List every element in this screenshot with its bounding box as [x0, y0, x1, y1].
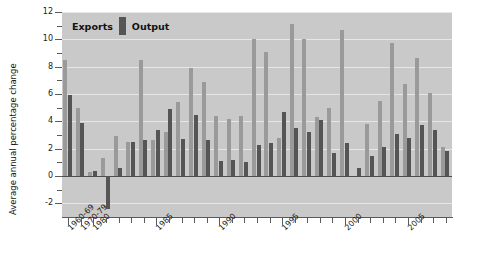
- x-tick-1989: [207, 218, 208, 223]
- bar-exports-1990: [214, 116, 218, 176]
- x-tick-2001: [358, 218, 359, 223]
- bar-exports-2008: [441, 147, 445, 176]
- x-tick-1998: [320, 218, 321, 223]
- bar-output-1985: [156, 130, 160, 176]
- gridline-10: [62, 39, 452, 40]
- y-tick-label-10: 10: [43, 35, 53, 43]
- bar-output-1994: [269, 143, 273, 176]
- bar-exports-2002: [365, 124, 369, 176]
- bar-exports-1989: [202, 82, 206, 176]
- gridline--2: [62, 203, 452, 204]
- y-tick-label--2: -2: [45, 199, 53, 207]
- legend-label-exports: Exports: [72, 21, 113, 32]
- bar-output-2000: [345, 143, 349, 176]
- x-tick-1981: [106, 218, 107, 223]
- x-tick-1997: [307, 218, 308, 223]
- bar-output-1988: [194, 115, 198, 177]
- x-tick-2004: [395, 218, 396, 223]
- gridline-12: [62, 12, 452, 13]
- bar-output-1970-79: [80, 123, 84, 176]
- bar-exports-2004: [390, 43, 394, 176]
- bar-exports-2007: [428, 93, 432, 176]
- bar-exports-1981: [101, 158, 105, 176]
- bar-output-1987: [181, 139, 185, 176]
- x-tick-1982: [119, 218, 120, 223]
- bar-output-1990: [219, 161, 223, 176]
- bar-output-2004: [395, 134, 399, 176]
- y-tick--2: [55, 203, 62, 204]
- bar-output-1983: [131, 142, 135, 176]
- chart-root: -2024681012 Average annual percentage ch…: [0, 0, 482, 278]
- x-tick-2002: [370, 218, 371, 223]
- bar-exports-1960-69: [63, 60, 67, 176]
- bar-output-2005: [407, 138, 411, 176]
- bar-output-1998: [319, 120, 323, 176]
- y-tick-6: [55, 94, 62, 95]
- bar-exports-2005: [403, 84, 407, 176]
- bar-exports-1998: [315, 117, 319, 176]
- x-tick-1991: [232, 218, 233, 223]
- bar-exports-1996: [290, 24, 294, 176]
- bar-exports-1986: [164, 132, 168, 176]
- bar-exports-1999: [327, 108, 331, 176]
- bar-output-2007: [433, 130, 437, 176]
- bar-exports-2006: [415, 58, 419, 176]
- legend-swatch-output: [119, 17, 126, 35]
- y-tick-12: [55, 12, 62, 13]
- bar-exports-1982: [114, 136, 118, 176]
- plot-area: [62, 12, 452, 217]
- x-tick-1986: [169, 218, 170, 223]
- bar-output-1992: [244, 162, 248, 176]
- x-tick-2006: [421, 218, 422, 223]
- x-tick-1993: [257, 218, 258, 223]
- y-tick-label-6: 6: [48, 90, 53, 98]
- x-tick-1994: [270, 218, 271, 223]
- bar-exports-1992: [239, 116, 243, 176]
- bar-exports-1991: [227, 119, 231, 176]
- bar-exports-1993: [252, 39, 256, 176]
- bar-output-1999: [332, 153, 336, 176]
- bar-exports-1988: [189, 68, 193, 176]
- bar-output-1984: [143, 140, 147, 176]
- bar-output-2001: [357, 168, 361, 176]
- y-tick-4: [55, 121, 62, 122]
- y-tick-2: [55, 149, 62, 150]
- chart-legend: Exports Output: [72, 16, 169, 36]
- bar-exports-1995: [277, 138, 281, 176]
- bar-output-1981: [106, 176, 110, 209]
- bar-output-2006: [420, 125, 424, 176]
- bar-output-2002: [370, 156, 374, 177]
- x-axis: 1960-691970-79198019851990199520002005: [62, 217, 453, 225]
- bar-output-2003: [382, 147, 386, 176]
- zero-line: [62, 176, 452, 177]
- x-tick-2008: [446, 218, 447, 223]
- x-tick-1999: [332, 218, 333, 223]
- y-tick-label-2: 2: [48, 145, 53, 153]
- bar-output-1986: [168, 109, 172, 176]
- x-tick-2003: [383, 218, 384, 223]
- bar-output-1995: [282, 112, 286, 176]
- bar-output-1991: [231, 160, 235, 176]
- bar-exports-1984: [139, 60, 143, 176]
- bar-output-1960-69: [68, 95, 72, 176]
- y-tick-label-8: 8: [48, 63, 53, 71]
- bar-exports-1997: [302, 39, 306, 176]
- y-tick-0: [55, 176, 62, 177]
- x-tick-1996: [295, 218, 296, 223]
- bar-exports-1980: [88, 172, 92, 176]
- bar-output-1989: [206, 140, 210, 176]
- x-tick-1992: [244, 218, 245, 223]
- y-tick-8: [55, 67, 62, 68]
- y-axis-title: Average annual percentage change: [8, 5, 18, 215]
- x-tick-1983: [131, 218, 132, 223]
- bar-exports-1970-79: [76, 108, 80, 176]
- x-tick-1988: [194, 218, 195, 223]
- bar-exports-2000: [340, 30, 344, 176]
- bar-output-1993: [257, 145, 261, 176]
- x-tick-1987: [182, 218, 183, 223]
- y-tick-label-0: 0: [48, 172, 53, 180]
- x-tick-2007: [433, 218, 434, 223]
- y-tick-label-12: 12: [43, 8, 53, 16]
- bar-output-1996: [294, 128, 298, 176]
- bar-exports-1985: [151, 140, 155, 176]
